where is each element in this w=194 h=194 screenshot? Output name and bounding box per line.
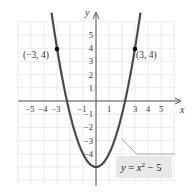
point-right-label: (3, 4) — [136, 50, 157, 61]
y-tick-label: 5 — [89, 30, 93, 40]
eq-rest: − 5 — [145, 162, 161, 173]
y-tick-label: −1 — [84, 109, 93, 119]
y-tick-label: 3 — [89, 56, 93, 66]
x-tick-label: 5 — [159, 104, 163, 114]
x-tick-label: −5 — [25, 104, 34, 114]
x-tick-label: 1 — [107, 104, 111, 114]
x-tick-label: 4 — [146, 104, 151, 114]
x-tick-label: −3 — [51, 104, 60, 114]
y-axis-label: y — [84, 7, 90, 18]
parabola-chart: x y −5−4−3−11345 54321−1−2−3−4 (−3, 4) (… — [0, 0, 194, 194]
point-left — [55, 47, 60, 52]
y-tick-label: −2 — [84, 122, 93, 132]
y-tick-labels: 54321−1−2−3−4 — [84, 30, 94, 159]
x-tick-label: 3 — [133, 104, 137, 114]
eq-equals: = — [126, 162, 137, 173]
y-tick-label: 1 — [89, 83, 93, 93]
point-left-label: (−3, 4) — [23, 50, 49, 61]
x-tick-labels: −5−4−3−11345 — [25, 104, 163, 114]
y-tick-label: 2 — [89, 70, 93, 80]
x-tick-label: −4 — [38, 104, 48, 114]
y-tick-label: −3 — [84, 136, 93, 146]
x-axis-label: x — [179, 104, 185, 115]
equation-label: y = x2 − 5 — [120, 161, 161, 173]
